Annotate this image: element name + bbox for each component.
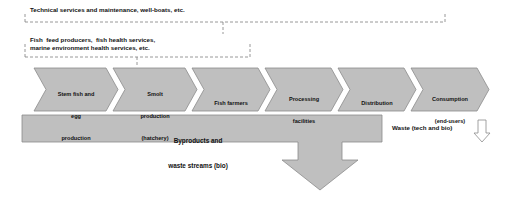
- stage-label-broodstock-line2: egg: [42, 113, 110, 120]
- waste-label: Waste (tech and bio): [392, 124, 452, 132]
- byproducts-label-line1: Byproducts and: [118, 137, 278, 145]
- stage-label-consumption-line1: Consumption: [417, 96, 483, 103]
- stage-label-broodstock-line3: production: [42, 135, 110, 142]
- byproducts-label-line2: waste streams (bio): [118, 162, 278, 170]
- stage-label-farmers-line1: Fish farmers: [198, 100, 264, 107]
- stage-label-farmers: Fish farmers: [198, 86, 264, 122]
- annotation-feed-producers: Fish feed producers, fish health service…: [30, 36, 155, 51]
- stage-label-processing-line1: Processing: [271, 96, 337, 103]
- annotation-technical-services: Technical services and maintenance, well…: [30, 6, 185, 14]
- value-chain-diagram: Technical services and maintenance, well…: [0, 0, 510, 207]
- stage-label-processing-line2: facilities: [271, 118, 337, 125]
- stage-label-smolt-line1: Smolt: [121, 91, 189, 98]
- stage-label-broodstock: Stem fish and egg production: [42, 77, 110, 156]
- stage-label-distribution: Distribution: [344, 86, 410, 122]
- dashed-bracket-technical-services: [25, 14, 445, 34]
- stage-label-broodstock-line1: Stem fish and: [42, 91, 110, 98]
- byproducts-label: Byproducts and waste streams (bio): [118, 120, 278, 187]
- stage-label-processing: Processing facilities: [271, 82, 337, 140]
- stage-label-distribution-line1: Distribution: [344, 100, 410, 107]
